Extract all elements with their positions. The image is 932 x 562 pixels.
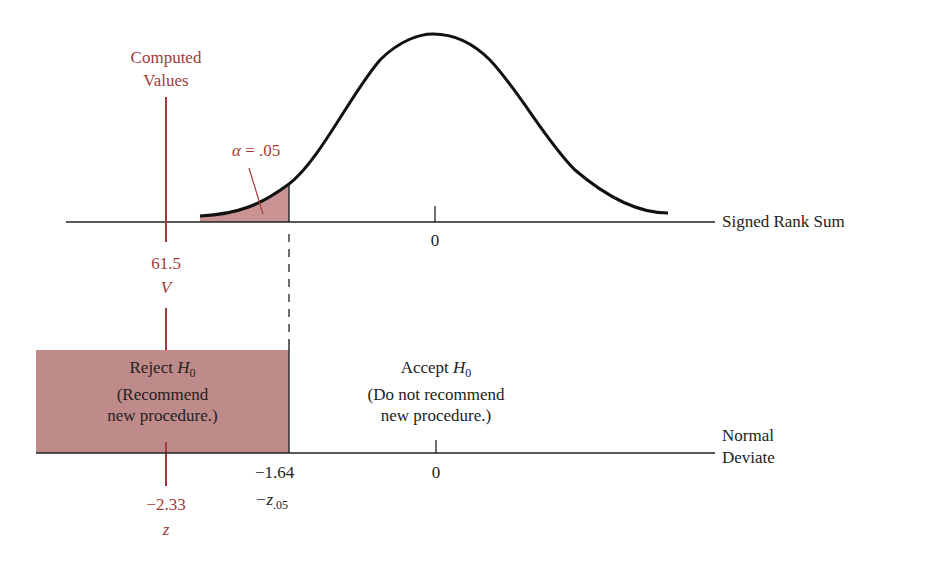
normal-curve — [200, 34, 668, 216]
top-zero-label: 0 — [431, 231, 440, 251]
critical-symbol-label: −z.05 — [255, 490, 288, 515]
reject-region-text: Reject H0 (Recommend new procedure.) — [36, 357, 289, 426]
bottom-zero-label: 0 — [432, 463, 441, 483]
v-value: 61.5 — [151, 254, 181, 274]
v-symbol: V — [161, 278, 171, 298]
computed-values-label: Computed Values — [131, 48, 202, 91]
bottom-axis-label: Normal Deviate — [722, 425, 775, 469]
critical-value-label: −1.64 — [255, 463, 294, 483]
z-value: −2.33 — [146, 495, 185, 515]
alpha-label: α = .05 — [232, 141, 280, 161]
accept-region-text: Accept H0 (Do not recommend new procedur… — [336, 357, 536, 426]
z-symbol: z — [163, 520, 170, 540]
top-axis-label: Signed Rank Sum — [722, 212, 845, 232]
